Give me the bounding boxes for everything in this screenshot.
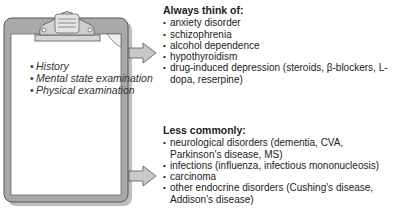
list-item: schizophrenia <box>163 29 388 40</box>
list-item: other endocrine disorders (Cushing's dis… <box>163 182 393 205</box>
arrow-less-icon <box>129 166 156 186</box>
list-item: anxiety disorder <box>163 17 388 28</box>
note-item: Physical examination <box>30 84 153 96</box>
list-item: neurological disorders (dementia, CVA, P… <box>163 137 393 160</box>
note-item: Mental state examination <box>30 72 153 84</box>
list-item: infections (influenza, infectious mononu… <box>163 160 393 171</box>
clip-icon <box>35 12 100 42</box>
always-think-of: Always think of: anxiety disorder schizo… <box>163 5 388 85</box>
list-item: hypothyroidism <box>163 51 388 62</box>
list-item: drug-induced depression (steroids, β-blo… <box>163 62 388 85</box>
clipboard-notes: History Mental state examination Physica… <box>30 60 153 96</box>
note-item: History <box>30 60 153 72</box>
less-title: Less commonly: <box>163 125 393 136</box>
less-commonly: Less commonly: neurological disorders (d… <box>163 125 393 205</box>
list-item: carcinoma <box>163 171 393 182</box>
always-title: Always think of: <box>163 5 388 16</box>
list-item: alcohol dependence <box>163 40 388 51</box>
clipboard-paper <box>11 34 121 195</box>
